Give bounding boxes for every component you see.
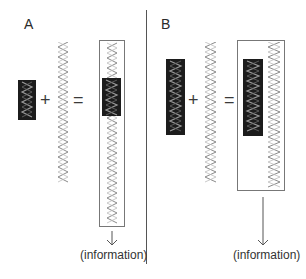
panel-a-bound-strand (102, 78, 121, 116)
panel-a-result-box (99, 40, 125, 227)
arrow-down-icon (256, 197, 270, 247)
helix-icon (18, 80, 36, 120)
plus-sign-a: + (40, 91, 51, 109)
helix-icon (100, 41, 124, 226)
equals-sign-a: = (73, 91, 84, 109)
helix-icon (166, 59, 185, 135)
plus-sign-b: + (188, 91, 199, 109)
panel-b-output-label: (information) (233, 248, 300, 262)
panel-divider (146, 10, 147, 264)
panel-b-label: B (161, 16, 170, 32)
panel-a-long-strand (56, 42, 70, 186)
helix-icon (56, 42, 70, 186)
panel-b-result-box (237, 40, 285, 191)
panel-b-long-dark-strand (166, 59, 185, 135)
panel-a-label: A (24, 16, 33, 32)
helix-icon (203, 42, 218, 186)
equals-sign-b: = (224, 91, 235, 109)
helix-icon (243, 59, 263, 136)
arrow-down-icon (105, 231, 119, 247)
helix-icon (266, 42, 282, 190)
panel-b-long-strand (203, 42, 218, 186)
panel-a-short-strand (18, 80, 36, 120)
panel-a-output-label: (information) (80, 248, 147, 262)
panel-b-bound-strand (243, 59, 263, 136)
helix-icon (102, 78, 121, 116)
